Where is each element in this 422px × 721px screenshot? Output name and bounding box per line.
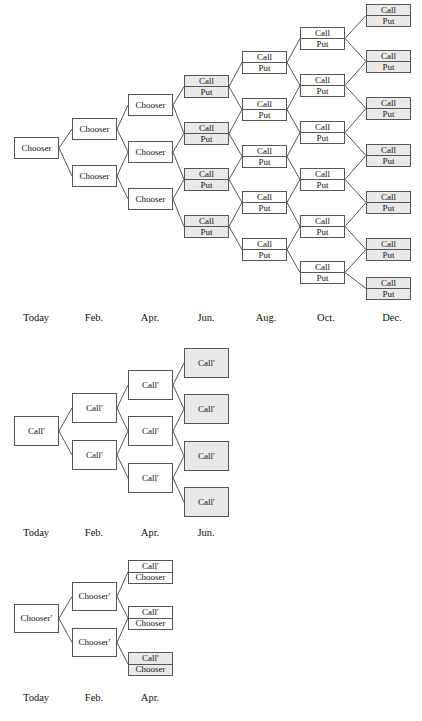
node-compound-chooser-prime-tree-apr-2[interactable]: Call′Chooser (128, 652, 173, 676)
node-label: Chooser′ (15, 605, 58, 632)
node-compound-chooser-prime-tree-feb-0[interactable]: Chooser′ (72, 582, 117, 611)
axis-label-compound-chooser-prime-tree-2: Apr. (141, 692, 159, 703)
node-label: Chooser′ (73, 629, 116, 656)
node-label: Chooser (129, 573, 172, 584)
node-label: Chooser (129, 665, 172, 676)
node-label: Call′ (129, 561, 172, 573)
axis-label-compound-chooser-prime-tree-0: Today (23, 692, 49, 703)
node-compound-chooser-prime-tree-feb-1[interactable]: Chooser′ (72, 628, 117, 657)
node-label: Chooser′ (73, 583, 116, 610)
connector-lines (0, 0, 422, 721)
node-compound-chooser-prime-tree-today-0[interactable]: Chooser′ (14, 604, 59, 633)
node-label: Call′ (129, 653, 172, 665)
node-label: Call′ (129, 607, 172, 619)
axis-label-compound-chooser-prime-tree-1: Feb. (85, 692, 103, 703)
node-label: Chooser (129, 619, 172, 630)
node-compound-chooser-prime-tree-apr-0[interactable]: Call′Chooser (128, 560, 173, 584)
node-compound-chooser-prime-tree-apr-1[interactable]: Call′Chooser (128, 606, 173, 630)
